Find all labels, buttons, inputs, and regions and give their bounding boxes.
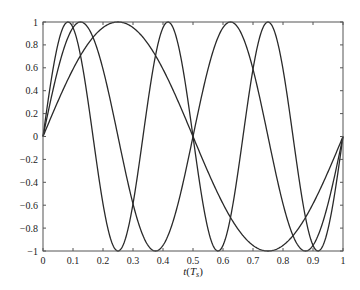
x-tick-label: 0.6 (217, 255, 230, 266)
x-tick-label: 0.7 (247, 255, 260, 266)
y-tick-label: 0.6 (26, 62, 39, 73)
x-tick-label: 0.3 (127, 255, 140, 266)
y-tick-label: 0.4 (26, 85, 39, 96)
x-tick-label: 0.9 (307, 255, 320, 266)
x-tick-label: 0 (41, 255, 46, 266)
y-tick-label: 0 (33, 131, 38, 142)
x-tick-label: 0.8 (277, 255, 290, 266)
chart: 00.10.20.30.40.50.60.70.80.91 10.80.60.4… (0, 0, 360, 290)
x-tick-label: 1 (341, 255, 346, 266)
series-line-3 (43, 22, 343, 251)
y-tick-label: −0.4 (20, 177, 38, 188)
x-tick-label: 0.1 (67, 255, 80, 266)
plot-curves (43, 22, 343, 251)
x-axis-label: t(Ts) (183, 265, 203, 279)
y-tick-label: 0.2 (26, 108, 39, 119)
y-tick-label: −0.8 (20, 223, 38, 234)
y-tick-label: −0.2 (20, 154, 38, 165)
y-tick-label: 1 (33, 17, 38, 28)
y-tick-label: −0.6 (20, 200, 38, 211)
x-tick-label: 0.2 (97, 255, 110, 266)
y-tick-label: 0.8 (26, 39, 39, 50)
x-tick-label: 0.4 (157, 255, 170, 266)
y-tick-labels: 10.80.60.40.20−0.2−0.4−0.6−0.8−1 (20, 17, 38, 257)
y-tick-label: −1 (27, 246, 38, 257)
